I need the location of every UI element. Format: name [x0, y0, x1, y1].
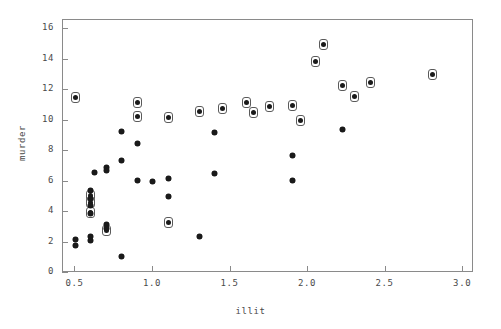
data-point-circled	[133, 97, 142, 108]
marker-ring	[86, 207, 95, 218]
data-point	[290, 153, 295, 158]
data-point-circled	[86, 207, 95, 218]
data-point-circled	[71, 92, 80, 103]
y-tick-label: 12	[20, 83, 54, 93]
marker-ring	[195, 106, 204, 117]
marker-core	[104, 228, 109, 233]
x-tick-mark	[385, 266, 386, 272]
data-point-circled	[102, 225, 111, 236]
marker-ring	[311, 56, 320, 67]
marker-core	[244, 100, 249, 105]
marker-core	[430, 72, 435, 77]
data-point	[166, 194, 171, 199]
marker-core	[73, 95, 78, 100]
marker-ring	[350, 91, 359, 102]
data-point	[166, 176, 171, 181]
marker-core	[352, 94, 357, 99]
x-tick-label: 1.5	[210, 278, 250, 288]
marker-core	[88, 193, 93, 198]
data-point	[119, 254, 124, 259]
marker-ring	[164, 112, 173, 123]
data-point	[212, 171, 217, 176]
scatter-plot-figure: 0246810121416 0.51.01.52.02.53.0 murder …	[0, 0, 501, 329]
marker-core	[135, 100, 140, 105]
data-point	[88, 238, 93, 243]
data-point-circled	[296, 115, 305, 126]
data-point	[104, 226, 109, 231]
x-axis-title: illit	[0, 306, 501, 316]
marker-core	[298, 118, 303, 123]
marker-ring	[164, 217, 173, 228]
y-tick-mark	[62, 242, 68, 243]
marker-ring	[288, 100, 297, 111]
y-tick-label: 2	[20, 236, 54, 246]
marker-core	[267, 104, 272, 109]
marker-core	[313, 59, 318, 64]
data-point	[290, 178, 295, 183]
x-tick-label: 2.0	[287, 278, 327, 288]
y-tick-mark	[62, 272, 68, 273]
data-point	[104, 168, 109, 173]
marker-ring	[338, 80, 347, 91]
data-point-circled	[249, 107, 258, 118]
marker-ring	[133, 97, 142, 108]
y-tick-mark	[62, 28, 68, 29]
y-tick-mark	[62, 120, 68, 121]
data-point	[92, 170, 97, 175]
plot-frame	[62, 19, 473, 272]
marker-core	[251, 110, 256, 115]
x-tick-label: 0.5	[54, 278, 94, 288]
data-point-circled	[366, 77, 375, 88]
data-point	[73, 243, 78, 248]
data-point	[340, 127, 345, 132]
marker-ring	[133, 111, 142, 122]
data-point	[197, 234, 202, 239]
data-point-circled	[311, 56, 320, 67]
marker-core	[166, 220, 171, 225]
marker-ring	[86, 190, 95, 201]
x-tick-mark	[74, 266, 75, 272]
y-axis-title: murder	[17, 113, 27, 173]
data-point	[88, 196, 93, 201]
y-tick-mark	[62, 59, 68, 60]
y-tick-label: 4	[20, 205, 54, 215]
marker-core	[340, 83, 345, 88]
x-tick-mark	[152, 266, 153, 272]
y-tick-label: 16	[20, 22, 54, 32]
data-point	[119, 158, 124, 163]
data-point-circled	[218, 103, 227, 114]
x-tick-label: 3.0	[442, 278, 482, 288]
y-tick-mark	[62, 150, 68, 151]
data-point	[88, 203, 93, 208]
marker-ring	[428, 69, 437, 80]
marker-core	[290, 103, 295, 108]
data-point	[212, 130, 217, 135]
data-point	[150, 179, 155, 184]
data-point-circled	[242, 97, 251, 108]
marker-core	[88, 210, 93, 215]
plot-data-area	[63, 20, 472, 271]
marker-core	[220, 106, 225, 111]
data-point-circled	[86, 197, 95, 208]
marker-ring	[296, 115, 305, 126]
marker-ring	[71, 92, 80, 103]
marker-ring	[265, 101, 274, 112]
marker-core	[166, 115, 171, 120]
data-point-circled	[133, 111, 142, 122]
marker-ring	[319, 39, 328, 50]
data-point-circled	[164, 217, 173, 228]
data-point-circled	[195, 106, 204, 117]
y-tick-mark	[62, 181, 68, 182]
marker-core	[135, 114, 140, 119]
data-point	[119, 129, 124, 134]
data-point-circled	[338, 80, 347, 91]
marker-ring	[242, 97, 251, 108]
y-tick-mark	[62, 211, 68, 212]
data-point	[104, 222, 109, 227]
data-point-circled	[319, 39, 328, 50]
data-point	[88, 188, 93, 193]
data-point	[88, 211, 93, 216]
data-point	[104, 165, 109, 170]
y-tick-label: 14	[20, 53, 54, 63]
marker-core	[88, 200, 93, 205]
